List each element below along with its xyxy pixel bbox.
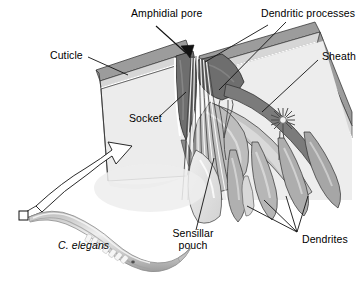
label-amphidial-pore: Amphidial pore [131,8,202,20]
label-dendritic-processes: Dendritic processes [261,8,355,20]
label-dendrites: Dendrites [302,234,348,246]
label-socket: Socket [129,113,162,125]
label-sensillar-pouch-line2: pouch [163,240,223,252]
label-cuticle: Cuticle [50,50,83,62]
amphid-sensillum-figure: Amphidial pore Dendritic processes Cutic… [0,0,362,287]
label-c-elegans: C. elegans [58,240,109,252]
label-sheath: Sheath [322,51,356,63]
label-sensillar-pouch-line1: Sensillar [163,228,223,240]
